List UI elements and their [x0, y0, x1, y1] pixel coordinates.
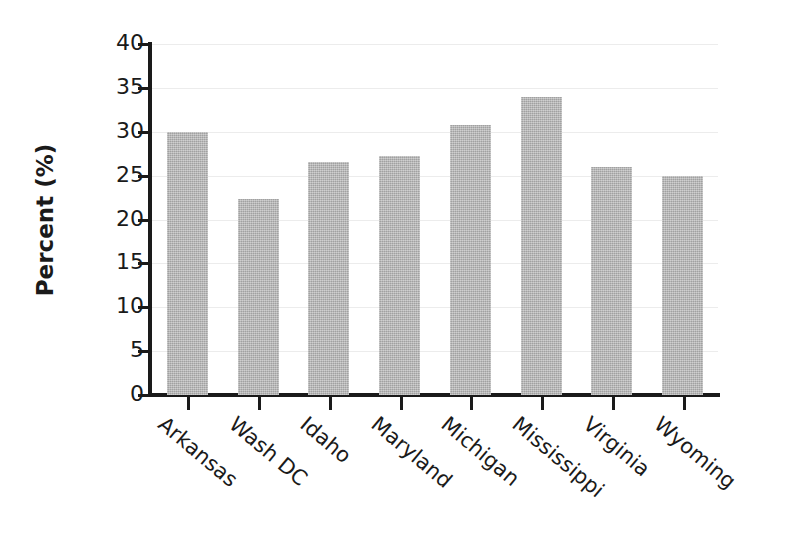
y-tick-label: 40 [100, 32, 144, 54]
bar-chart-figure: Percent (%) 0510152025303540 ArkansasWas… [0, 0, 806, 551]
x-tick [612, 397, 615, 410]
x-tick-label: Wash DC [225, 412, 312, 491]
bar [308, 162, 349, 395]
x-tick [470, 397, 473, 410]
x-tick-label: Wyoming [649, 412, 740, 494]
bar [662, 176, 703, 395]
x-tick [187, 397, 190, 410]
bar [450, 125, 491, 395]
bar [379, 156, 420, 395]
gridline [152, 88, 718, 89]
x-tick-label: Idaho [295, 412, 355, 468]
y-tick-label: 0 [100, 383, 144, 405]
bar [591, 167, 632, 395]
y-tick-label: 35 [100, 76, 144, 98]
plot-area [152, 44, 718, 395]
bar [521, 97, 562, 395]
y-tick-label: 5 [100, 339, 144, 361]
y-tick-label: 10 [100, 295, 144, 317]
x-tick [329, 397, 332, 410]
bar [167, 132, 208, 395]
x-tick [683, 397, 686, 410]
y-axis-title: Percent (%) [0, 0, 90, 440]
y-tick-label: 25 [100, 164, 144, 186]
y-axis-title-text: Percent (%) [32, 144, 58, 296]
gridline [152, 176, 718, 177]
bar [238, 199, 279, 395]
x-tick [400, 397, 403, 410]
x-tick [541, 397, 544, 410]
y-tick-label: 15 [100, 251, 144, 273]
gridline [152, 132, 718, 133]
x-tick [258, 397, 261, 410]
y-tick-label: 20 [100, 208, 144, 230]
gridline [152, 44, 718, 45]
y-tick-label: 30 [100, 120, 144, 142]
